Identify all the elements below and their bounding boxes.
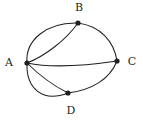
- graph-node-label-d: D: [67, 104, 76, 117]
- graph-edge-ac: [27, 61, 117, 66]
- graph-node-a: [24, 60, 29, 65]
- graph-edge-ad-outer: [27, 63, 68, 96]
- graph-node-label-c: C: [128, 55, 136, 68]
- graph-node-c: [114, 58, 119, 63]
- graph-edge-ab-outer: [27, 23, 78, 63]
- graph-canvas: ABCD: [0, 0, 143, 123]
- graph-edge-ad-inner: [27, 63, 68, 93]
- graph-node-d: [65, 90, 70, 95]
- graph-node-label-a: A: [4, 56, 14, 69]
- edge-layer: [27, 23, 117, 96]
- graph-edge-ab-inner: [27, 23, 78, 63]
- graph-edge-bc: [78, 23, 117, 61]
- graph-node-label-b: B: [75, 1, 83, 14]
- graph-node-b: [75, 20, 80, 25]
- graph-figure: ABCD: [0, 0, 143, 123]
